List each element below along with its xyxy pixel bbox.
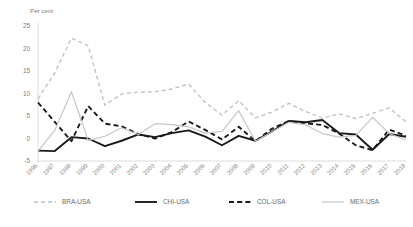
y-axis-tick-label: 10 [23, 90, 31, 97]
series-line-mex-usa [38, 92, 406, 151]
x-axis-tick-label: 2000 [91, 161, 106, 176]
x-axis-tick-label: 2002 [125, 161, 140, 176]
x-axis-tick-label: 2007 [208, 161, 223, 176]
x-axis-tick-label: 2009 [242, 161, 257, 176]
y-axis-tick-label: 5 [26, 112, 30, 119]
legend-label-bra-usa: BRA-USA [62, 198, 91, 205]
y-axis-tick-label: 15 [23, 67, 31, 74]
x-axis-tick-label: 2004 [158, 161, 173, 176]
x-axis-tick-label: 2005 [175, 161, 190, 176]
y-axis-tick-label: 20 [23, 45, 31, 52]
x-axis-ticks: 1996199719981999200020012002200320042005… [24, 161, 407, 176]
series-lines [38, 38, 406, 151]
line-chart: Per cent 2520151050-5 199619971998199920… [0, 0, 413, 227]
y-axis-tick-label: -5 [24, 157, 30, 164]
x-axis-tick-label: 2011 [275, 161, 290, 176]
x-axis-tick-label: 2017 [375, 161, 390, 176]
x-axis-tick-label: 2010 [258, 161, 273, 176]
legend-label-chi-usa: CHI-USA [163, 198, 190, 205]
y-axis-ticks: 2520151050-5 [23, 22, 31, 164]
series-line-bra-usa [38, 38, 406, 122]
x-axis-tick-label: 2012 [292, 161, 307, 176]
x-axis-tick-label: 2003 [141, 161, 156, 176]
y-axis-tick-label: 25 [23, 22, 31, 29]
chart-legend: BRA-USACHI-USACOL-USAMEX-USA [34, 198, 380, 205]
x-axis-tick-label: 1999 [74, 161, 89, 176]
chart-container: Per cent 2520151050-5 199619971998199920… [0, 0, 413, 227]
axis-lines [38, 23, 406, 163]
series-line-col-usa [38, 103, 406, 151]
x-axis-tick-label: 2015 [342, 161, 357, 176]
y-axis-title-text: Per cent [30, 7, 53, 14]
x-axis-tick-label: 2014 [325, 161, 340, 176]
y-axis-title: Per cent [30, 7, 53, 14]
x-axis-tick-label: 1998 [58, 161, 73, 176]
x-axis-tick-label: 2018 [392, 161, 407, 176]
x-axis-tick-label: 1997 [41, 161, 56, 176]
legend-label-mex-usa: MEX-USA [350, 198, 380, 205]
x-axis-tick-label: 2016 [359, 161, 374, 176]
y-axis-tick-label: 0 [26, 135, 30, 142]
x-axis-tick-label: 2006 [191, 161, 206, 176]
x-axis-tick-label: 2008 [225, 161, 240, 176]
x-axis-tick-label: 2013 [309, 161, 324, 176]
legend-label-col-usa: COL-USA [257, 198, 286, 205]
x-axis-tick-label: 2001 [108, 161, 123, 176]
